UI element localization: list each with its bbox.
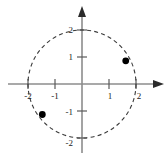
data-point-marker bbox=[39, 111, 46, 118]
axes-group bbox=[8, 6, 164, 153]
x-tick-label-neg1: -1 bbox=[51, 91, 59, 101]
x-tick-label-pos1: 1 bbox=[108, 91, 113, 101]
y-axis-arrowhead-icon bbox=[78, 6, 86, 17]
y-tick-label-neg2: -2 bbox=[66, 138, 74, 148]
y-tick-label-neg1: -1 bbox=[66, 107, 74, 117]
data-points-group bbox=[39, 57, 129, 118]
y-tick-label-pos1: 1 bbox=[69, 52, 74, 62]
data-point-marker bbox=[122, 57, 129, 64]
x-axis-arrowhead-icon bbox=[153, 80, 164, 88]
x-tick-label-pos2: 2 bbox=[137, 91, 142, 101]
y-tick-label-pos2: 2 bbox=[69, 25, 74, 35]
x-tick-label-neg2: -2 bbox=[24, 91, 32, 101]
coordinate-plane-figure: -2 -1 1 2 2 1 -1 -2 bbox=[0, 0, 166, 160]
plot-canvas: -2 -1 1 2 2 1 -1 -2 bbox=[0, 0, 166, 160]
